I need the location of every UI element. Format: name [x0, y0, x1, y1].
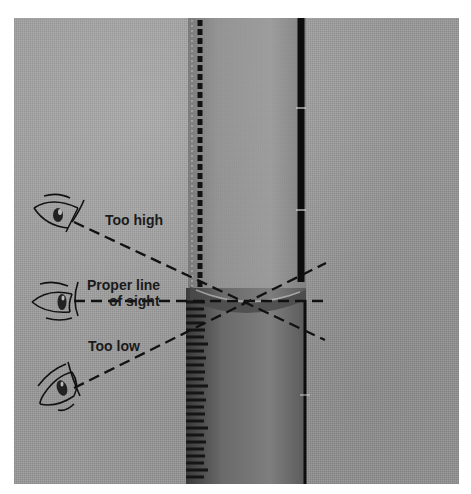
eye-icon-proper [32, 282, 78, 320]
eye-icon-too-high [34, 194, 84, 232]
eye-icon-too-low [38, 362, 80, 410]
photo-frame: Too high Proper line of sight Too low [14, 18, 459, 484]
cylinder-tube [186, 18, 310, 484]
label-too-low: Too low [88, 338, 140, 354]
label-proper-line: Proper line [87, 277, 160, 293]
label-too-high: Too high [105, 212, 163, 228]
label-of-sight: of sight [109, 293, 160, 309]
diagram-graphics [14, 18, 459, 484]
